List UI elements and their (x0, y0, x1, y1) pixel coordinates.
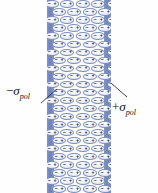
dipole: −+ (76, 97, 90, 104)
dipole: −+ (98, 41, 111, 48)
label-negative-sigma-pol: −σpol (6, 83, 30, 101)
dipole: −+ (67, 8, 81, 15)
dipole: −+ (83, 41, 97, 48)
dipole: −+ (76, 49, 90, 56)
dipole-positive-sign: + (76, 138, 79, 143)
dipole-positive-sign: + (61, 106, 64, 111)
dipole-negative-sign: − (47, 66, 50, 71)
dipole-negative-sign: − (78, 66, 81, 71)
dipole-negative-sign: − (94, 130, 97, 135)
dipole-positive-sign: + (84, 66, 87, 71)
dipole: −+ (52, 73, 66, 80)
dipole: −+ (107, 145, 111, 152)
dipole-negative-sign: − (63, 50, 66, 55)
dipole-positive-sign: + (91, 9, 94, 14)
dipole: −+ (47, 0, 59, 7)
dipole-negative-sign: − (85, 42, 88, 47)
dipole-negative-sign: − (101, 90, 104, 95)
dipole-positive-sign: + (100, 162, 103, 167)
dipole-positive-sign: + (84, 114, 87, 119)
dipole: −+ (83, 73, 97, 80)
dipole: −+ (67, 57, 81, 64)
dipole: −+ (91, 129, 105, 136)
dipole: −+ (98, 8, 111, 15)
dipole-positive-sign: + (100, 17, 103, 22)
dipole-positive-sign: + (100, 66, 103, 71)
dipole: −+ (91, 113, 105, 120)
dipole: −+ (67, 169, 81, 176)
dipole: −+ (83, 169, 97, 176)
dipole: −+ (60, 0, 74, 7)
dipole-positive-sign: + (69, 162, 72, 167)
dipole-positive-sign: + (107, 106, 110, 111)
dipole-positive-sign: + (61, 90, 64, 95)
dipole-positive-sign: + (91, 138, 94, 143)
dipole: −+ (83, 89, 97, 96)
dipole: −+ (98, 153, 111, 160)
dipole-positive-sign: + (54, 114, 57, 119)
dipole-negative-sign: − (101, 26, 104, 31)
dipole-negative-sign: − (63, 17, 66, 22)
dipole-negative-sign: − (47, 146, 50, 151)
dipole-negative-sign: − (85, 122, 88, 127)
dipole-positive-sign: + (69, 66, 72, 71)
dipole: −+ (52, 121, 66, 128)
dipole-negative-sign: − (63, 98, 66, 103)
dipole-positive-sign: + (100, 50, 103, 55)
dipole-row: −+−+−+−+−+ (47, 48, 111, 56)
dipole: −+ (52, 185, 66, 192)
dipole-negative-sign: − (94, 34, 97, 39)
dipole-positive-sign: + (61, 42, 64, 47)
dipole-negative-sign: − (47, 1, 50, 6)
dipole-positive-sign: + (76, 154, 79, 159)
dipole-negative-sign: − (54, 90, 57, 95)
dipole-row: −+−+−+−+−+ (47, 97, 111, 105)
dipole-negative-sign: − (101, 170, 104, 175)
dipole-positive-sign: + (100, 130, 103, 135)
dipole-positive-sign: + (91, 58, 94, 63)
dipole: −+ (107, 177, 111, 184)
dipole-row: −+−+−+−+−+ (47, 0, 111, 8)
dipole-positive-sign: + (91, 26, 94, 31)
dipole-negative-sign: − (85, 58, 88, 63)
dipole-positive-sign: + (76, 74, 79, 79)
dipole: −+ (98, 89, 111, 96)
dipole-negative-sign: − (47, 82, 50, 87)
dipole: −+ (47, 129, 59, 136)
dipole-row: −+−+−+−+ (47, 121, 111, 129)
dipole-positive-sign: + (100, 82, 103, 87)
dipole-positive-sign: + (69, 114, 72, 119)
dipole-positive-sign: + (76, 90, 79, 95)
leader-line-positive (111, 83, 127, 97)
dipole-negative-sign: − (47, 34, 50, 39)
dipole: −+ (91, 81, 105, 88)
dipole-negative-sign: − (54, 42, 57, 47)
dipole-negative-sign: − (101, 106, 104, 111)
dipole-positive-sign: + (100, 98, 103, 103)
dipole-negative-sign: − (94, 146, 97, 151)
dipole-row: −+−+−+−+ (47, 40, 111, 48)
dipole: −+ (76, 16, 90, 23)
dipole: −+ (60, 161, 74, 168)
dipole: −+ (107, 32, 111, 39)
label-negative-subscript: pol (20, 92, 30, 101)
dipole-negative-sign: − (85, 170, 88, 175)
dipole-positive-sign: + (54, 98, 57, 103)
dipole: −+ (76, 81, 90, 88)
dipole: −+ (47, 161, 59, 168)
dipole-negative-sign: − (70, 58, 73, 63)
dipole: −+ (98, 185, 111, 192)
dipole-negative-sign: − (47, 98, 50, 103)
dipole-negative-sign: − (94, 98, 97, 103)
dipole: −+ (91, 161, 105, 168)
dipole-positive-sign: + (69, 34, 72, 39)
dipole-negative-sign: − (54, 138, 57, 143)
dipole-positive-sign: + (76, 42, 79, 47)
dipole: −+ (60, 129, 74, 136)
dipole-positive-sign: + (54, 162, 57, 167)
dipole: −+ (91, 65, 105, 72)
dipole: −+ (83, 185, 97, 192)
dipole-negative-sign: − (78, 114, 81, 119)
dipole-positive-sign: + (76, 26, 79, 31)
dipole-row: −+−+−+−+ (47, 169, 111, 177)
